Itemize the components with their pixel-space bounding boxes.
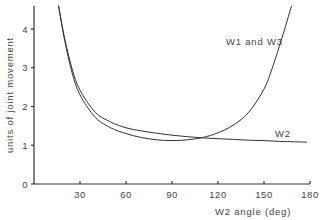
curves (59, 6, 307, 142)
y-tick-label: 2 (22, 101, 28, 112)
x-tick-label: 150 (255, 189, 272, 200)
joint-movement-chart: 01234 306090120150180 W1 and W3 W2 W2 an… (0, 0, 325, 220)
curve-w2 (59, 6, 307, 142)
x-tick-label: 60 (120, 189, 132, 200)
curve-w1-and-w3 (59, 6, 292, 141)
series-label-w2: W2 (275, 128, 291, 139)
y-tick-label: 1 (22, 140, 28, 151)
y-tick-label: 0 (22, 179, 28, 190)
y-axis-label: units of joint movement (4, 37, 15, 153)
x-axis-label: W2 angle (deg) (215, 206, 291, 217)
series-label-w1-w3: W1 and W3 (226, 36, 283, 47)
y-tick-label: 3 (22, 62, 28, 73)
y-tick-label: 4 (22, 24, 28, 35)
y-ticks: 01234 (22, 24, 34, 190)
x-tick-label: 120 (209, 189, 226, 200)
axes (34, 6, 310, 184)
x-tick-label: 180 (301, 189, 318, 200)
x-tick-label: 90 (166, 189, 178, 200)
x-tick-label: 30 (74, 189, 86, 200)
